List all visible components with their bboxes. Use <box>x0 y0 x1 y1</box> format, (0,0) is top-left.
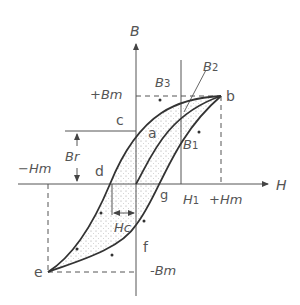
point-d: d <box>95 164 104 178</box>
hc-label: Hc <box>114 221 131 234</box>
h-axis-label: H <box>276 178 287 192</box>
b2-label: B2 <box>203 60 218 73</box>
b2-text: B <box>203 59 212 74</box>
h1-label: H1 <box>183 193 199 206</box>
plus-bm-label: +Bm <box>90 88 122 101</box>
point-g: g <box>160 188 168 201</box>
point-f: f <box>143 240 148 254</box>
b-axis-label: B <box>130 24 140 38</box>
b1-text: B <box>183 137 192 152</box>
minus-hm-label: −Hm <box>18 162 51 175</box>
br-label: Br <box>65 150 79 163</box>
b1-label: B1 <box>183 138 198 151</box>
point-e: e <box>34 265 43 279</box>
hysteresis-diagram <box>0 0 300 305</box>
h1-text: H <box>183 192 193 207</box>
point-a: a <box>148 126 157 140</box>
minus-bm-label: -Bm <box>150 264 176 277</box>
b2-sub: 2 <box>212 62 218 73</box>
b3-sub: 3 <box>164 78 170 89</box>
point-b: b <box>226 89 235 103</box>
b3-label: B3 <box>155 76 170 89</box>
b1-sub: 1 <box>192 140 198 151</box>
h1-sub: 1 <box>193 195 199 206</box>
b3-text: B <box>155 75 164 90</box>
plus-hm-label: +Hm <box>209 193 242 206</box>
point-c: c <box>116 113 124 127</box>
